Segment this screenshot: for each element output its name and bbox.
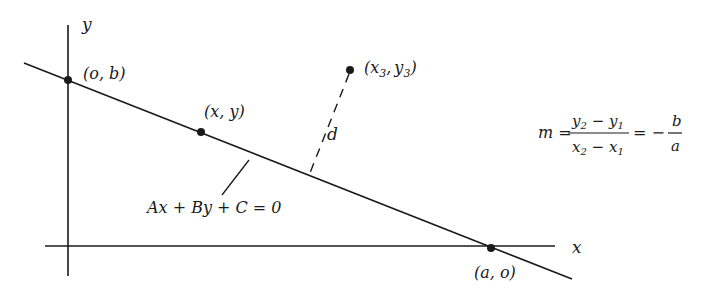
slope-numerator: y2 − y1 <box>571 112 624 131</box>
external-point-close: ) <box>409 58 416 77</box>
x-intercept-label: (a, o) <box>474 263 516 282</box>
distance-label: d <box>327 124 338 144</box>
slope-equals-neg: = − <box>633 123 665 142</box>
slope-denominator: x2 − x1 <box>572 138 624 157</box>
external-point-dot <box>346 66 354 74</box>
external-point-sub-y: 3 <box>403 67 410 80</box>
y-intercept-dot <box>64 76 72 84</box>
line-diagram: y x d (o, b) (x, y) (x3,y3) (a, o) Ax + … <box>0 0 702 301</box>
slope-rhs-denominator: a <box>671 137 680 155</box>
y-intercept-label: (o, b) <box>83 64 126 83</box>
equation-pointer <box>222 160 249 195</box>
general-point-dot <box>197 128 205 136</box>
slope-lhs: m = <box>538 123 572 142</box>
x-intercept-dot <box>487 244 495 252</box>
slope-rhs-numerator: b <box>672 112 682 130</box>
external-point-label: (x3,y3) <box>364 58 417 80</box>
external-point-sub-x: 3 <box>379 67 386 80</box>
slope-formula: m = y2 − y1 x2 − x1 = − b a <box>538 112 682 157</box>
y-axis-label: y <box>81 14 92 34</box>
external-point-label-x: (x <box>364 58 379 77</box>
line-equation: Ax + By + C = 0 <box>145 198 282 217</box>
external-point-comma: , <box>386 58 391 77</box>
general-point-label: (x, y) <box>204 102 245 121</box>
x-axis-label: x <box>572 237 582 257</box>
